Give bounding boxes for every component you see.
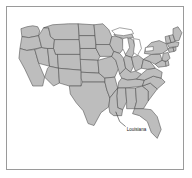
us-map-container[interactable]: Louisiana	[7, 7, 183, 169]
lake-huron-erie	[134, 39, 142, 56]
state-texas[interactable]	[69, 82, 109, 125]
state-florida[interactable]	[133, 109, 162, 139]
state-mississippi[interactable]	[117, 88, 127, 110]
state-colorado[interactable]	[57, 54, 81, 70]
lake-ontario	[145, 47, 153, 52]
state-wyoming[interactable]	[54, 40, 81, 55]
state-arizona[interactable]	[45, 66, 60, 86]
state-north-dakota[interactable]	[78, 24, 95, 36]
state-alabama[interactable]	[126, 88, 137, 109]
state-maine[interactable]	[173, 27, 182, 41]
state-new-mexico[interactable]	[58, 68, 81, 86]
state-minnesota[interactable]	[94, 24, 112, 45]
figure-frame: Louisiana	[6, 6, 184, 170]
map-figure: Louisiana	[0, 0, 192, 178]
state-south-dakota[interactable]	[79, 36, 96, 49]
state-new-jersey[interactable]	[162, 52, 170, 61]
annotation-label: Louisiana	[127, 127, 147, 132]
us-map-svg[interactable]: Louisiana	[7, 7, 183, 169]
state-ohio[interactable]	[132, 55, 144, 71]
state-kansas[interactable]	[80, 59, 99, 73]
